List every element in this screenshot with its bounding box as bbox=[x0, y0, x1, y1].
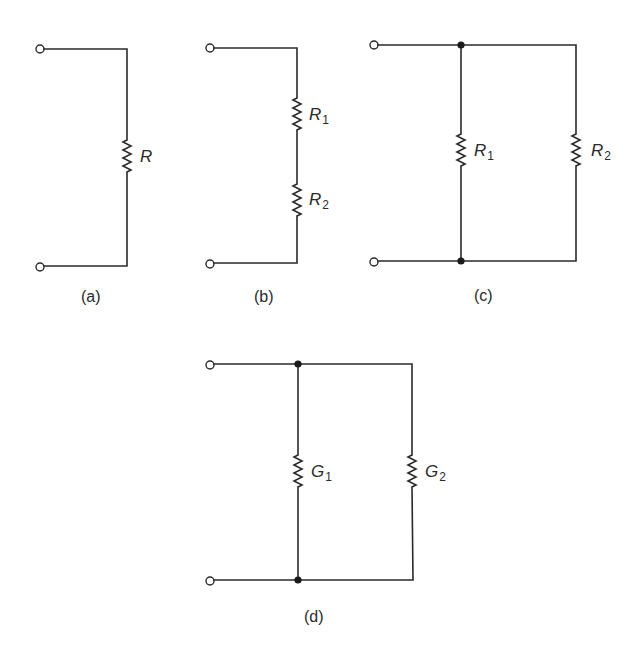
terminal-a-top bbox=[36, 45, 44, 53]
wire-a-bottom bbox=[44, 172, 127, 266]
caption-a: (a) bbox=[81, 289, 101, 305]
terminal-d-bottom bbox=[206, 577, 214, 585]
terminal-b-top bbox=[206, 44, 214, 52]
circuit-b bbox=[206, 44, 301, 268]
junction-d-top bbox=[294, 360, 301, 367]
wire-d-bottom bbox=[214, 487, 413, 580]
circuit-a bbox=[36, 45, 131, 271]
wire-d-top bbox=[214, 364, 412, 455]
label-b-R1: R1 bbox=[309, 106, 329, 129]
resistor-d-G2 bbox=[408, 455, 416, 487]
circuit-figure: R R1 R2 R1 R2 G1 G2 (a) (b) (c) (d) bbox=[0, 0, 642, 647]
resistor-b-R1 bbox=[293, 98, 301, 130]
terminal-b-bottom bbox=[206, 260, 214, 268]
terminal-d-top bbox=[206, 361, 214, 369]
caption-c: (c) bbox=[474, 288, 493, 304]
wire-c-bottom bbox=[378, 166, 576, 261]
resistor-b-R2 bbox=[293, 184, 301, 216]
caption-d: (d) bbox=[304, 609, 324, 625]
resistor-c-R2 bbox=[572, 134, 580, 166]
resistor-a-R bbox=[123, 140, 131, 172]
label-d-G1: G1 bbox=[311, 463, 332, 486]
label-c-R1: R1 bbox=[474, 142, 494, 165]
resistor-d-G1 bbox=[294, 455, 302, 487]
junction-c-top bbox=[457, 41, 464, 48]
wire-c-top bbox=[378, 45, 576, 134]
junction-c-bottom bbox=[457, 257, 464, 264]
terminal-c-top bbox=[370, 41, 378, 49]
label-d-G2: G2 bbox=[425, 463, 446, 486]
junction-d-bottom bbox=[294, 576, 301, 583]
wire-b-top bbox=[214, 48, 297, 98]
caption-b: (b) bbox=[254, 289, 274, 305]
wire-b-bottom bbox=[214, 216, 297, 263]
terminal-a-bottom bbox=[36, 263, 44, 271]
label-b-R2: R2 bbox=[309, 191, 329, 214]
wire-a-top bbox=[44, 49, 127, 140]
terminal-c-bottom bbox=[370, 258, 378, 266]
label-a-R: R bbox=[140, 148, 152, 165]
label-c-R2: R2 bbox=[591, 142, 611, 165]
resistor-c-R1 bbox=[457, 134, 465, 166]
